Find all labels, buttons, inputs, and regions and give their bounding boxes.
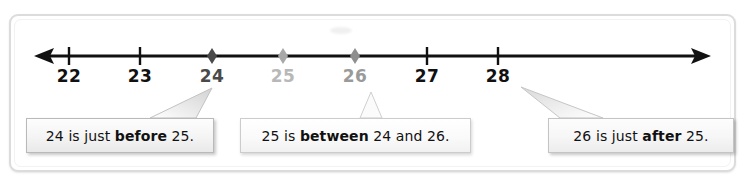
callout-between-emphasis: between (300, 128, 369, 144)
tick-label-24: 24 (182, 66, 242, 86)
tick-label-26: 26 (325, 66, 385, 86)
callout-before-text: 24 is just before 25. (46, 128, 194, 144)
callout-before-pre: 24 is just (46, 128, 115, 144)
callout-after[interactable]: 26 is just after 25. (548, 118, 734, 153)
callout-after-text: 26 is just after 25. (573, 128, 708, 144)
paper-smudge (330, 27, 352, 34)
tick-label-25: 25 (253, 66, 313, 86)
callout-after-post: 25. (682, 128, 709, 144)
callout-after-pre: 26 is just (573, 128, 642, 144)
callout-before-emphasis: before (115, 128, 167, 144)
tick-label-22: 22 (39, 66, 99, 86)
callout-between-post: 24 and 26. (369, 128, 450, 144)
callout-after-emphasis: after (642, 128, 681, 144)
tick-label-28: 28 (468, 66, 528, 86)
tick-label-27: 27 (397, 66, 457, 86)
callout-before-post: 25. (167, 128, 194, 144)
figure-root: 22 23 24 25 26 27 28 24 is just before 2… (0, 0, 753, 190)
callout-between-text: 25 is between 24 and 26. (261, 128, 449, 144)
callout-between-pre: 25 is (261, 128, 300, 144)
tick-label-23: 23 (110, 66, 170, 86)
callout-before[interactable]: 24 is just before 25. (26, 118, 214, 153)
callout-between[interactable]: 25 is between 24 and 26. (240, 118, 471, 153)
